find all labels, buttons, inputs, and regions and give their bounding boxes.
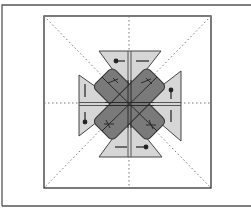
diagram-canvas — [0, 0, 251, 209]
folding-diagram — [0, 0, 251, 209]
